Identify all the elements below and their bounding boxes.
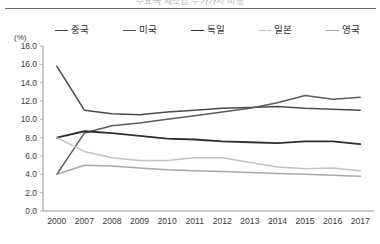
y-tick-label: 10.0 bbox=[21, 114, 38, 124]
series-lines bbox=[57, 66, 360, 176]
chart-figure: 주요국 제조업 부가가치 비중 중국 미국 독일 일본 영국 (%) 0.02.… bbox=[0, 0, 380, 244]
x-tick-label: 2013 bbox=[240, 216, 259, 226]
x-tick-label: 2009 bbox=[130, 216, 149, 226]
series-line-영국 bbox=[57, 165, 360, 176]
series-line-미국 bbox=[57, 96, 360, 175]
x-tick-label: 2014 bbox=[268, 216, 287, 226]
plot-area: 0.02.04.06.08.010.012.014.016.018.0 2000… bbox=[0, 0, 380, 244]
y-tick-label: 8.0 bbox=[25, 133, 37, 143]
series-line-중국 bbox=[57, 66, 360, 115]
x-tick-label: 2012 bbox=[213, 216, 232, 226]
y-tick-label: 14.0 bbox=[21, 78, 38, 88]
x-tick-label: 2017 bbox=[351, 216, 370, 226]
x-tick-label: 2008 bbox=[102, 216, 121, 226]
y-tick-label: 18.0 bbox=[21, 41, 38, 51]
x-tick-label: 2000 bbox=[47, 216, 66, 226]
y-tick-label: 0.0 bbox=[25, 206, 37, 216]
y-tick-label: 4.0 bbox=[25, 169, 37, 179]
x-axis-labels: 2000200720082009201020112012201320142015… bbox=[47, 216, 370, 226]
y-axis-labels: 0.02.04.06.08.010.012.014.016.018.0 bbox=[21, 41, 38, 216]
x-tick-label: 2007 bbox=[75, 216, 94, 226]
chart-svg: 0.02.04.06.08.010.012.014.016.018.0 2000… bbox=[0, 0, 380, 244]
series-line-독일 bbox=[57, 131, 360, 144]
y-tick-label: 6.0 bbox=[25, 151, 37, 161]
x-tick-label: 2010 bbox=[158, 216, 177, 226]
x-tick-label: 2016 bbox=[323, 216, 342, 226]
y-tick-label: 16.0 bbox=[21, 59, 38, 69]
y-tick-label: 2.0 bbox=[25, 188, 37, 198]
x-tick-label: 2015 bbox=[295, 216, 314, 226]
x-tick-label: 2011 bbox=[185, 216, 204, 226]
y-tick-label: 12.0 bbox=[21, 96, 38, 106]
